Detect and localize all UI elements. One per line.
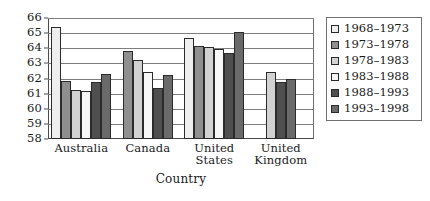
legend-label: 1973–1978	[344, 39, 409, 51]
y-axis-tick-label: 60	[27, 103, 42, 115]
bar[interactable]	[71, 90, 81, 139]
bar[interactable]	[91, 82, 101, 139]
legend-label: 1968–1973	[344, 23, 409, 35]
bar[interactable]	[101, 74, 111, 139]
legend-label: 1983–1988	[344, 71, 409, 83]
legend-swatch-icon	[331, 105, 339, 113]
legend-item[interactable]: 1993–1998	[331, 101, 418, 117]
bar[interactable]	[214, 49, 224, 139]
legend-item[interactable]: 1968–1973	[331, 21, 418, 37]
bar-chart: 666564636261605958 AustraliaCanadaUnited…	[0, 0, 430, 201]
bar[interactable]	[184, 38, 194, 139]
bar[interactable]	[51, 27, 61, 139]
y-axis-tick-label: 61	[27, 88, 42, 100]
y-axis-tick-label: 59	[27, 118, 42, 130]
y-axis-tick-label: 62	[27, 73, 42, 85]
legend-swatch-icon	[331, 57, 339, 65]
bar[interactable]	[194, 46, 204, 139]
y-axis-tick-label: 66	[27, 12, 42, 24]
bar[interactable]	[234, 32, 244, 139]
x-axis-label: United States	[181, 142, 248, 166]
bar-group-bars	[123, 18, 173, 139]
legend-label: 1978–1983	[344, 55, 409, 67]
legend-item[interactable]: 1978–1983	[331, 53, 418, 69]
x-axis-title: Country	[48, 172, 314, 186]
legend-item[interactable]: 1983–1988	[331, 69, 418, 85]
y-axis-tick-label: 65	[27, 27, 42, 39]
bar[interactable]	[123, 51, 133, 139]
legend-swatch-icon	[331, 89, 339, 97]
x-axis-labels: AustraliaCanadaUnited StatesUnited Kingd…	[48, 142, 314, 166]
legend-swatch-icon	[331, 41, 339, 49]
bar[interactable]	[143, 72, 153, 139]
y-axis-tick-label: 64	[27, 43, 42, 55]
bar[interactable]	[276, 82, 286, 139]
bars-layer	[48, 18, 314, 139]
bar[interactable]	[224, 53, 234, 139]
bar-group-bars	[184, 18, 244, 139]
bar[interactable]	[61, 81, 71, 139]
y-axis-tick-label: 63	[27, 58, 42, 70]
bar-group-bars	[266, 18, 296, 139]
plot-wrap: 666564636261605958	[48, 18, 314, 139]
bar[interactable]	[266, 72, 276, 139]
bar-group	[248, 18, 315, 139]
bar-group	[115, 18, 182, 139]
legend-label: 1988–1993	[344, 87, 409, 99]
legend-swatch-icon	[331, 73, 339, 81]
x-axis-label: Canada	[115, 142, 182, 166]
bar[interactable]	[286, 79, 296, 140]
bar-group-bars	[51, 18, 111, 139]
bar[interactable]	[81, 91, 91, 139]
x-axis-label: Australia	[48, 142, 115, 166]
legend: 1968–19731973–19781978–19831983–19881988…	[326, 17, 422, 121]
x-axis-label: United Kingdom	[248, 142, 315, 166]
bar-group	[48, 18, 115, 139]
legend-item[interactable]: 1973–1978	[331, 37, 418, 53]
bar[interactable]	[153, 88, 163, 139]
bar[interactable]	[133, 60, 143, 139]
bar-group	[181, 18, 248, 139]
y-axis-tick-label: 58	[27, 133, 42, 145]
legend-item[interactable]: 1988–1993	[331, 85, 418, 101]
bar[interactable]	[163, 75, 173, 139]
bar[interactable]	[204, 47, 214, 139]
legend-swatch-icon	[331, 25, 339, 33]
legend-label: 1993–1998	[344, 103, 409, 115]
